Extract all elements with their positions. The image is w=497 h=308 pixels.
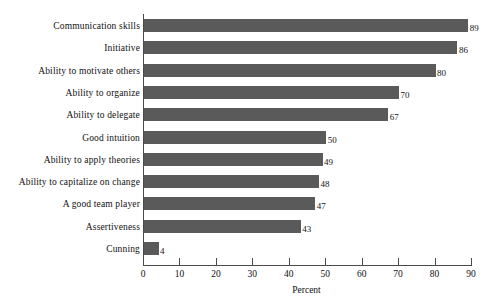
x-tick [362, 258, 363, 265]
bar-row: Ability to organize70 [0, 85, 497, 107]
bar [144, 64, 436, 77]
bar-value-label: 67 [390, 112, 399, 122]
bar-row: Assertiveness43 [0, 219, 497, 241]
category-label: Initiative [0, 42, 140, 54]
bar-value-label: 86 [459, 45, 468, 55]
category-label: Ability to delegate [0, 109, 140, 121]
category-label: Ability to capitalize on change [0, 176, 140, 188]
bar-value-label: 89 [470, 23, 479, 33]
bar-value-label: 80 [437, 68, 446, 78]
x-tick [325, 258, 326, 265]
x-tick [216, 258, 217, 265]
bar [144, 19, 468, 32]
bar-value-label: 43 [302, 224, 311, 234]
category-label: Communication skills [0, 20, 140, 32]
x-tick [289, 258, 290, 265]
bar-row: Cunning4 [0, 241, 497, 263]
bar-row: Initiative86 [0, 40, 497, 62]
category-label: A good team player [0, 198, 140, 210]
bar [144, 197, 315, 210]
bar-row: Ability to capitalize on change48 [0, 174, 497, 196]
category-label: Good intuition [0, 132, 140, 144]
x-tick-label: 10 [164, 268, 194, 280]
bar [144, 41, 457, 54]
x-tick-label: 30 [237, 268, 267, 280]
bar [144, 153, 323, 166]
bar-value-label: 47 [317, 201, 326, 211]
category-label: Assertiveness [0, 221, 140, 233]
x-tick-label: 50 [310, 268, 340, 280]
bar [144, 86, 399, 99]
bar-value-label: 70 [401, 90, 410, 100]
x-tick [398, 258, 399, 265]
x-tick-label: 90 [456, 268, 486, 280]
bar-row: Communication skills89 [0, 18, 497, 40]
bar-row: Ability to apply theories49 [0, 152, 497, 174]
x-tick [435, 258, 436, 265]
category-label: Cunning [0, 243, 140, 255]
bar-row: Ability to delegate67 [0, 107, 497, 129]
category-label: Ability to apply theories [0, 154, 140, 166]
x-axis-line [143, 265, 472, 266]
x-tick [471, 258, 472, 265]
x-tick-label: 80 [420, 268, 450, 280]
x-tick [179, 258, 180, 265]
bar [144, 242, 159, 255]
bar [144, 131, 326, 144]
bar-chart: Communication skills89Initiative86Abilit… [0, 0, 497, 308]
bar-value-label: 4 [160, 246, 165, 256]
bar [144, 175, 319, 188]
x-axis-title: Percent [0, 284, 497, 296]
plot-area: Communication skills89Initiative86Abilit… [0, 0, 497, 308]
bar-row: Ability to motivate others80 [0, 63, 497, 85]
x-tick-label: 40 [274, 268, 304, 280]
x-tick-label: 60 [347, 268, 377, 280]
x-tick-label: 70 [383, 268, 413, 280]
x-tick-label: 0 [128, 268, 158, 280]
category-label: Ability to motivate others [0, 65, 140, 77]
x-tick [143, 258, 144, 265]
bar [144, 108, 388, 121]
bar-row: Good intuition50 [0, 130, 497, 152]
category-label: Ability to organize [0, 87, 140, 99]
bar-value-label: 50 [328, 135, 337, 145]
x-tick [252, 258, 253, 265]
bar [144, 220, 301, 233]
bar-value-label: 49 [324, 157, 333, 167]
x-tick-label: 20 [201, 268, 231, 280]
bar-value-label: 48 [320, 179, 329, 189]
bar-row: A good team player47 [0, 196, 497, 218]
